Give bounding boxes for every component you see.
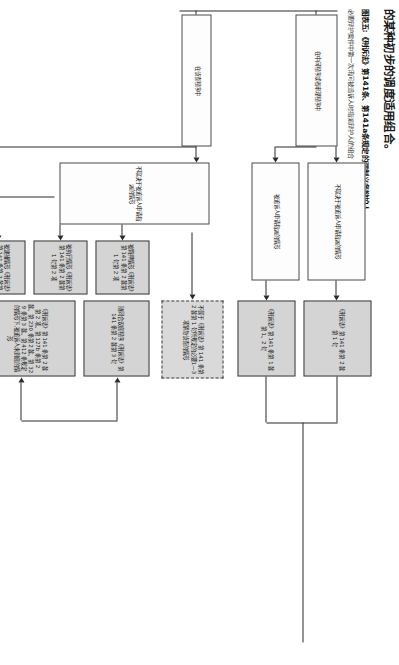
rail-statute-join [266,422,337,423]
condition-arrest-label: 被执行情形《刑诉法》第 141 条第 2 款第 1 句第 2 项 [49,243,70,291]
stage-trial-split-line [275,146,316,147]
connector-stage-to-app-trial [274,146,275,157]
condition-custody-label: 被羁押情形《刑诉法》第 141 条第 2 款第 1 句第 2 项 [111,243,132,291]
connector-to-exception [191,232,192,294]
condition-application-trial-label: 被追诉人申请指派的情形 [271,165,278,277]
arrow-stage-to-noapp-trial [333,157,339,162]
condition-detain-label: 被逮捕情形《刑诉法》第 141 条第 2 款第 1 句第 1 项 [0,243,9,291]
arrow-app-to-statute [263,295,269,300]
arrow-inv-detain [0,235,1,240]
connector-inv-custody [121,224,122,235]
stage-investigation-box[interactable]: 在侦查程序中 [181,14,211,146]
rail-statute-out [302,422,303,642]
statute-141-2-1-box[interactable]: 《刑诉法》第 141 条第 2 款第 1 句 [303,300,371,376]
condition-application-trial-box[interactable]: 被追诉人申请指派的情形 [251,162,299,280]
arrow-to-exception [189,294,195,299]
exception-dashed-label: 不属于《刑诉法》第 141 条第 2 款第 1 句所规定的必要1—3项紧急侦查的… [181,303,202,375]
rail-statute-top [336,376,337,422]
rail-right-collector [21,420,117,421]
connector-inv-arrest [59,224,60,235]
left-spine-lower [0,196,54,197]
arrow-stage-to-app-trial [272,157,278,162]
rail-into-law-group [20,382,21,420]
arrow-noapp-to-statute [333,295,339,300]
condition-no-application-inv-label: 不取决于被追诉人申请指派的情形 [127,165,141,221]
arrow-inv-arrest [57,235,63,240]
trunk-vertical-line [179,10,337,11]
fast-track-label: 随同合议庭程序《刑诉法》第 141 条第 2 款第 3 句 [109,303,123,373]
arrow-into-fast-track [114,377,120,382]
rail-statute-bottom [265,376,266,422]
statute-141-1-2-box[interactable]: 《刑诉法》第 141 条第 1 款第 1、2 句 [237,300,295,376]
arrow-into-law-group [18,377,24,382]
chart-subtitle: 必要辩护案件中第一次讯问被追诉人时指派辩护人的组合 [346,8,355,158]
condition-no-application-trial-label: 不取决于被追诉人申请指派的情形 [332,165,339,277]
flowchart-canvas: 的某种初步的调度适用组合。 图表五:《刑诉法》第141条、第141a条规定的强制… [0,0,399,665]
fast-track-box[interactable]: 随同合议庭程序《刑诉法》第 141 条第 2 款第 3 句 [83,300,149,376]
condition-detain-box[interactable]: 被逮捕情形《刑诉法》第 141 条第 2 款第 1 句第 1 项 [0,240,25,294]
connector-app-to-statute [265,280,266,295]
condition-no-application-trial-box[interactable]: 不取决于被追诉人申请指派的情形 [307,162,365,280]
statute-141-1-2-label: 《刑诉法》第 141 条第 1 款第 1、2 句 [259,303,273,373]
stage-investigation-label: 在侦查程序中 [192,17,199,143]
trunk-branch-bottom [195,10,196,14]
stage-middle-trial-box[interactable]: 在中间程序或者审理程序中 [295,14,337,146]
connector-stage-to-noapp-inv [195,146,196,157]
law-group-box[interactable]: 《刑诉法》第 141 条第 2 款第 2 项、第 127b 条第 2 款、第 2… [0,300,75,376]
stage-middle-trial-label: 在中间程序或者审理程序中 [312,17,319,143]
trunk-branch-top [315,10,316,14]
stage-inv-split-line [0,146,196,147]
connector-noapp-to-statute [335,280,336,295]
condition-arrest-box[interactable]: 被执行情形《刑诉法》第 141 条第 2 款第 1 句第 2 项 [33,240,87,294]
arrow-inv-custody [119,235,125,240]
page-text-fragment: 的某种初步的调度适用组合。 [381,8,397,155]
condition-no-application-inv-box[interactable]: 不取决于被追诉人申请指派的情形 [59,162,209,224]
diagram-page: 的某种初步的调度适用组合。 图表五:《刑诉法》第141条、第141a条规定的强制… [0,0,399,665]
statute-141-2-1-label: 《刑诉法》第 141 条第 2 款第 1 句 [330,303,344,373]
rail-into-fast-track [116,382,117,420]
exception-dashed-box[interactable]: 不属于《刑诉法》第 141 条第 2 款第 1 句所规定的必要1—3项紧急侦查的… [161,300,223,378]
connector-stage-to-noapp-trial [335,146,336,157]
condition-custody-box[interactable]: 被羁押情形《刑诉法》第 141 条第 2 款第 1 句第 2 项 [95,240,149,294]
arrow-stage-to-noapp-inv [193,157,199,162]
law-group-label: 《刑诉法》第 141 条第 2 款第 2 项、第 127b 条第 2 款、第 2… [5,303,48,373]
